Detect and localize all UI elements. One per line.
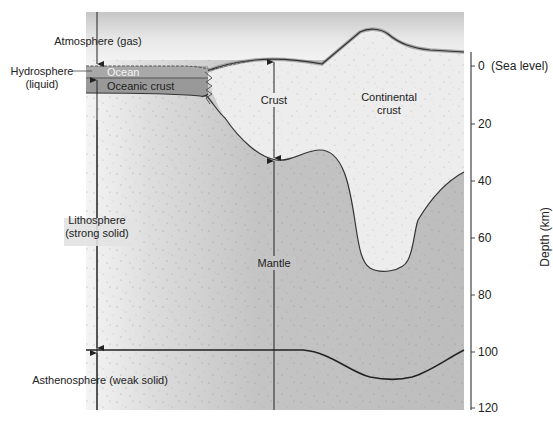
crust-label: Crust <box>261 94 287 106</box>
lithosphere-sublabel: (strong solid) <box>65 227 129 239</box>
tick-label-20: 20 <box>478 117 492 131</box>
oceanic-crust-label: Oceanic crust <box>107 80 174 92</box>
depth-axis-title: Depth (km) <box>538 207 552 266</box>
depth-axis <box>471 52 475 410</box>
tick-label-40: 40 <box>478 174 492 188</box>
ocean-label: Ocean <box>107 66 139 78</box>
tick-label-120: 120 <box>478 401 498 415</box>
atmosphere-label: Atmosphere (gas) <box>54 35 141 47</box>
earth-layers-diagram: 0 (Sea level) 20 40 60 80 100 120 Depth … <box>0 0 553 422</box>
lithosphere-label: Lithosphere <box>68 214 126 226</box>
continental-crust-sublabel: crust <box>377 104 401 116</box>
tick-label-100: 100 <box>478 345 498 359</box>
mantle-label: Mantle <box>257 257 290 269</box>
asthenosphere-label: Asthenosphere (weak solid) <box>32 374 168 386</box>
tick-label-sea-level: (Sea level) <box>491 59 548 73</box>
continental-crust-label: Continental <box>361 91 417 103</box>
tick-label-0: 0 <box>478 59 485 73</box>
hydrosphere-label: Hydrosphere <box>11 65 74 77</box>
hydrosphere-sublabel: (liquid) <box>25 78 58 90</box>
tick-label-80: 80 <box>478 288 492 302</box>
tick-label-60: 60 <box>478 231 492 245</box>
